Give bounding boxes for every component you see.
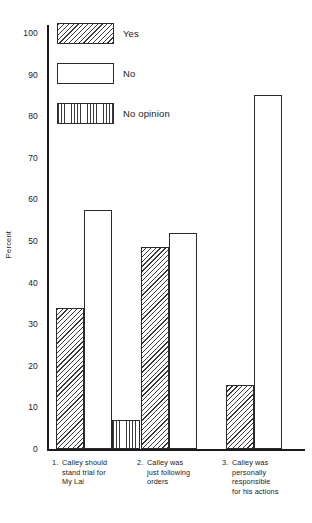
category-label-line: stand trial for: [52, 468, 136, 478]
bar-chart: Percent 1009080706050403020100 Yes No No…: [0, 0, 312, 523]
category-label-line: personally: [222, 468, 306, 478]
plot-area: 1009080706050403020100: [0, 0, 312, 523]
legend-swatch-vertical-lines-icon: [57, 103, 114, 124]
category-label-line: My Lai: [52, 477, 136, 487]
x-axis-line: [47, 449, 305, 451]
bar: [254, 95, 282, 449]
legend-item-yes: Yes: [57, 22, 139, 44]
bar: [169, 233, 197, 449]
category-label-line: just following: [137, 468, 221, 478]
legend-label-yes: Yes: [123, 28, 139, 39]
y-tick-label: 20: [8, 361, 38, 371]
category-label: 3.Calley waspersonallyresponsiblefor his…: [222, 458, 306, 496]
category-label: 1.Calley shouldstand trial forMy Lai: [52, 458, 136, 487]
y-axis-line: [47, 25, 49, 451]
category-label: 2.Calley wasjust followingorders: [137, 458, 221, 487]
category-label-line: Calley should: [52, 458, 136, 468]
bar: [112, 420, 140, 449]
y-tick-label: 40: [8, 278, 38, 288]
y-tick-label: 100: [8, 28, 38, 38]
bar: [141, 247, 169, 449]
category-label-line: for his actions: [222, 487, 306, 497]
legend-label-no-opinion: No opinion: [123, 108, 170, 119]
category-number: 2.: [137, 458, 143, 468]
bar: [226, 385, 254, 449]
y-tick-label: 70: [8, 153, 38, 163]
legend-swatch-diagonal-hatch-icon: [57, 23, 114, 44]
legend-item-no-opinion: No opinion: [57, 102, 170, 124]
category-number: 1.: [52, 458, 58, 468]
legend-item-no: No: [57, 62, 135, 84]
bar: [56, 308, 84, 449]
legend-swatch-empty-icon: [57, 63, 114, 84]
y-tick-label: 60: [8, 194, 38, 204]
y-tick-label: 10: [8, 402, 38, 412]
category-label-line: Calley was: [137, 458, 221, 468]
category-label-line: responsible: [222, 477, 306, 487]
y-tick-label: 80: [8, 111, 38, 121]
category-label-line: Calley was: [222, 458, 306, 468]
legend-label-no: No: [123, 68, 135, 79]
category-label-line: orders: [137, 477, 221, 487]
y-tick-label: 30: [8, 319, 38, 329]
y-tick-label: 50: [8, 236, 38, 246]
category-number: 3.: [222, 458, 228, 468]
y-tick-label: 90: [8, 70, 38, 80]
bar: [84, 210, 112, 449]
y-tick-label: 0: [8, 444, 38, 454]
